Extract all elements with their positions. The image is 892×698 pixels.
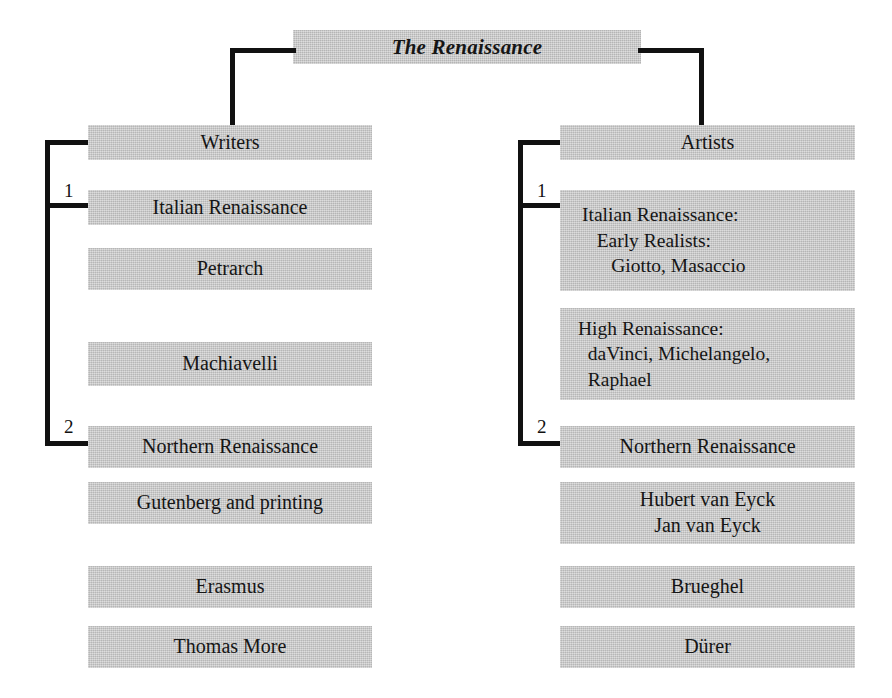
artists-bracket-arm-section-2 — [518, 441, 564, 446]
writers-northern-item-1-box: Erasmus — [88, 566, 372, 608]
writers-section-2-label: Northern Renaissance — [88, 434, 372, 460]
artists-northern-item-2-label: Dürer — [560, 634, 855, 660]
writers-northern-item-0-label: Gutenberg and printing — [88, 490, 372, 516]
writers-bracket-spine — [45, 140, 50, 446]
artists-italian-item-0-box: High Renaissance: daVinci, Michelangelo,… — [560, 308, 855, 400]
artists-northern-item-0-label: Hubert van Eyck Jan van Eyck — [560, 487, 855, 538]
artists-italian-item-0-label: High Renaissance: daVinci, Michelangelo,… — [578, 316, 855, 392]
writers-bracket-arm-heading — [45, 140, 92, 145]
writers-index-2: 2 — [64, 417, 74, 436]
writers-bracket-arm-section-1 — [45, 203, 92, 208]
artists-northern-item-1-box: Brueghel — [560, 566, 855, 608]
connector-title-to-writers-horizontal — [230, 48, 296, 53]
renaissance-outline-diagram: The Renaissance 1 2 Writers Italian Rena… — [0, 0, 892, 698]
artists-section-1-label: Italian Renaissance: Early Realists: Gio… — [582, 202, 855, 278]
connector-title-to-artists-horizontal — [638, 48, 704, 53]
connector-title-to-writers-vertical — [230, 48, 235, 127]
writers-northern-item-2-label: Thomas More — [88, 634, 372, 660]
artists-bracket-spine — [518, 140, 523, 446]
writers-section-1-label: Italian Renaissance — [88, 195, 372, 221]
artists-section-2-label: Northern Renaissance — [560, 434, 855, 460]
artists-northern-item-1-label: Brueghel — [560, 574, 855, 600]
title-box-label: The Renaissance — [293, 34, 641, 61]
artists-northern-item-2-box: Dürer — [560, 626, 855, 668]
writers-northern-item-0-box: Gutenberg and printing — [88, 482, 372, 524]
writers-italian-item-0-label: Petrarch — [88, 256, 372, 282]
writers-northern-item-1-label: Erasmus — [88, 574, 372, 600]
artists-index-1: 1 — [537, 181, 547, 200]
artists-bracket-arm-section-1 — [518, 203, 564, 208]
artists-section-1-box: Italian Renaissance: Early Realists: Gio… — [560, 190, 855, 291]
artists-northern-item-0-box: Hubert van Eyck Jan van Eyck — [560, 482, 855, 544]
artists-heading-label: Artists — [560, 130, 855, 156]
connector-title-to-artists-vertical — [699, 48, 704, 127]
writers-section-1-box: Italian Renaissance — [88, 190, 372, 225]
writers-northern-item-2-box: Thomas More — [88, 626, 372, 668]
artists-bracket-arm-heading — [518, 140, 564, 145]
writers-italian-item-0-box: Petrarch — [88, 248, 372, 290]
writers-section-2-box: Northern Renaissance — [88, 426, 372, 468]
writers-italian-item-1-box: Machiavelli — [88, 342, 372, 386]
writers-bracket-arm-section-2 — [45, 441, 92, 446]
artists-section-2-box: Northern Renaissance — [560, 426, 855, 468]
writers-index-1: 1 — [64, 181, 74, 200]
writers-heading-box: Writers — [88, 125, 372, 160]
writers-italian-item-1-label: Machiavelli — [88, 351, 372, 377]
artists-heading-box: Artists — [560, 125, 855, 160]
title-box: The Renaissance — [293, 30, 641, 64]
artists-index-2: 2 — [537, 417, 547, 436]
writers-heading-label: Writers — [88, 130, 372, 156]
